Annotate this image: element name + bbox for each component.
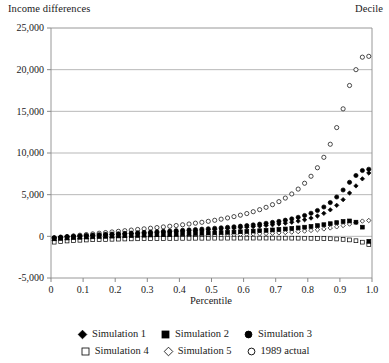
legend-item-simulation-5[interactable]: Simulation 5 xyxy=(163,346,232,357)
x-axis-title: Percentile xyxy=(190,295,232,306)
y-tick-label: 10,000 xyxy=(17,147,45,158)
y-tick-label: 0 xyxy=(39,231,44,242)
filled-circle-icon xyxy=(243,329,254,340)
legend-label: Simulation 2 xyxy=(171,329,229,340)
x-tick-label: 0.7 xyxy=(269,284,282,295)
x-tick-label: 0.3 xyxy=(141,284,154,295)
x-tick-label: 0.2 xyxy=(109,284,122,295)
legend-item-simulation-4[interactable]: Simulation 4 xyxy=(80,346,149,357)
legend-row: Simulation 4Simulation 51989 actual xyxy=(0,343,389,360)
legend-label: Simulation 1 xyxy=(88,329,146,340)
legend-item-simulation-1[interactable]: Simulation 1 xyxy=(77,329,146,340)
x-tick-label: 0.8 xyxy=(302,284,315,295)
open-circle-icon xyxy=(246,346,257,357)
x-tick-label: 1.0 xyxy=(366,284,379,295)
open-diamond-icon xyxy=(163,346,174,357)
x-tick-label: 0 xyxy=(49,284,54,295)
y-axis-ticks: -5,00005,00010,00015,00020,00025,000 xyxy=(17,22,52,283)
y-tick-label: 15,000 xyxy=(17,106,45,117)
x-tick-label: 0.4 xyxy=(173,284,186,295)
legend-label: Simulation 4 xyxy=(91,346,149,357)
chart-legend: Simulation 1Simulation 2Simulation 3Simu… xyxy=(0,326,389,360)
x-tick-label: 0.6 xyxy=(237,284,250,295)
legend-item-simulation-2[interactable]: Simulation 2 xyxy=(160,329,229,340)
filled-diamond-icon xyxy=(77,329,88,340)
y-tick-label: 5,000 xyxy=(22,189,45,200)
x-tick-label: 0.9 xyxy=(334,284,347,295)
scatter-plot: -5,00005,00010,00015,00020,00025,000 00.… xyxy=(0,0,389,326)
y-tick-label: -5,000 xyxy=(18,272,44,283)
x-axis-ticks: 00.10.20.30.40.50.60.70.80.91.0 xyxy=(49,278,379,295)
legend-label: 1989 actual xyxy=(257,346,310,357)
legend-row: Simulation 1Simulation 2Simulation 3 xyxy=(0,326,389,343)
legend-label: Simulation 3 xyxy=(254,329,312,340)
filled-square-icon xyxy=(160,329,171,340)
legend-label: Simulation 5 xyxy=(174,346,232,357)
x-tick-label: 0.1 xyxy=(77,284,90,295)
legend-item-simulation-3[interactable]: Simulation 3 xyxy=(243,329,312,340)
legend-item-1989-actual[interactable]: 1989 actual xyxy=(246,346,310,357)
x-tick-label: 0.5 xyxy=(205,284,218,295)
data-series-group xyxy=(52,54,371,246)
open-square-icon xyxy=(80,346,91,357)
chart-figure: Income differences Decile -5,00005,00010… xyxy=(0,0,389,363)
y-tick-label: 25,000 xyxy=(17,22,45,33)
y-tick-label: 20,000 xyxy=(17,64,45,75)
